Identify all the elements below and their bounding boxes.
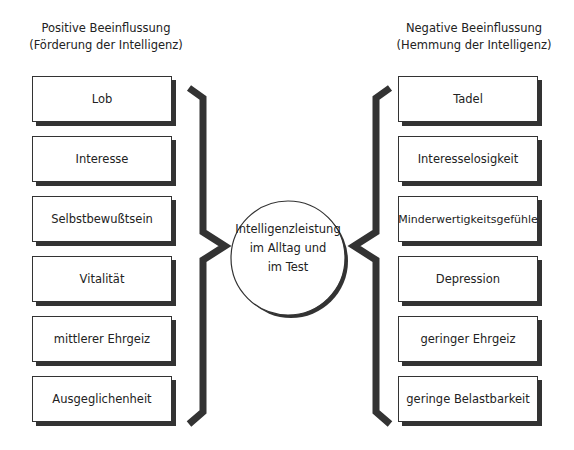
factor-box-tadel: Tadel: [398, 76, 538, 122]
factor-label: geringer Ehrgeiz: [420, 332, 515, 346]
factor-label: mittlerer Ehrgeiz: [54, 332, 150, 346]
factor-label: Tadel: [453, 92, 483, 106]
left-heading-line1: Positive Beeinflussung: [6, 20, 206, 37]
factor-box-mittlerer-ehrgeiz: mittlerer Ehrgeiz: [32, 316, 172, 362]
center-label-line3: im Test: [228, 258, 348, 277]
factor-label: geringe Belastbarkeit: [406, 392, 529, 406]
factor-label: Interesselosigkeit: [418, 152, 519, 166]
right-brace: [354, 88, 390, 424]
left-brace: [189, 88, 225, 424]
factor-box-geringer-ehrgeiz: geringer Ehrgeiz: [398, 316, 538, 362]
factor-box-minderwertigkeitsgefuehle: Minderwertigkeitsgefühle: [398, 196, 538, 242]
factor-label: Ausgeglichenheit: [52, 392, 151, 406]
factor-label: Depression: [436, 272, 500, 286]
right-heading-line1: Negative Beeinflussung: [374, 20, 574, 37]
factor-box-geringe-belastbarkeit: geringe Belastbarkeit: [398, 376, 538, 422]
right-heading-line2: (Hemmung der Intelligenz): [374, 37, 574, 54]
factor-box-interesse: Interesse: [32, 136, 172, 182]
factor-box-depression: Depression: [398, 256, 538, 302]
factor-label: Interesse: [76, 152, 129, 166]
factor-label: Minderwertigkeitsgefühle: [398, 213, 538, 226]
factor-label: Lob: [92, 92, 113, 106]
factor-box-vitalitaet: Vitalität: [32, 256, 172, 302]
factor-box-lob: Lob: [32, 76, 172, 122]
factor-box-ausgeglichenheit: Ausgeglichenheit: [32, 376, 172, 422]
factor-label: Selbstbewußtsein: [51, 212, 153, 226]
factor-box-interesselosigkeit: Interesselosigkeit: [398, 136, 538, 182]
factor-label: Vitalität: [80, 272, 125, 286]
right-heading: Negative Beeinflussung (Hemmung der Inte…: [374, 20, 574, 54]
left-heading-line2: (Förderung der Intelligenz): [6, 37, 206, 54]
center-label: Intelligenzleistung im Alltag und im Tes…: [228, 220, 348, 277]
left-heading: Positive Beeinflussung (Förderung der In…: [6, 20, 206, 54]
center-label-line1: Intelligenzleistung: [228, 220, 348, 239]
factor-box-selbstbewusstsein: Selbstbewußtsein: [32, 196, 172, 242]
center-label-line2: im Alltag und: [228, 239, 348, 258]
